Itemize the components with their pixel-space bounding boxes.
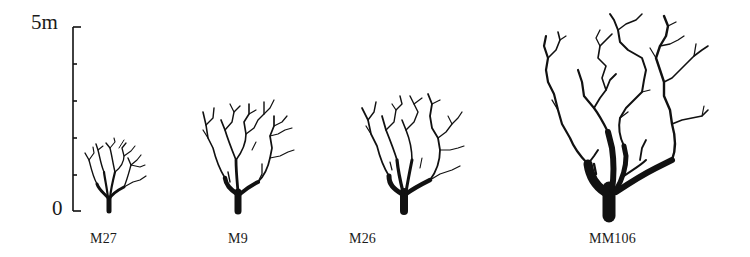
height-scale-axis <box>73 27 81 211</box>
tree-m27-silhouette <box>85 138 146 211</box>
tree-mm106-silhouette <box>544 14 708 216</box>
tree-label-m27: M27 <box>90 232 117 246</box>
tree-label-m9: M9 <box>228 232 248 246</box>
tree-m9-silhouette <box>203 100 294 211</box>
tree-m26-silhouette <box>362 94 464 211</box>
diagram-canvas <box>0 0 750 257</box>
tree-label-mm106: MM106 <box>589 232 636 246</box>
rootstock-size-diagram: 5m 0 <box>0 0 750 257</box>
tree-label-m26: M26 <box>349 232 376 246</box>
